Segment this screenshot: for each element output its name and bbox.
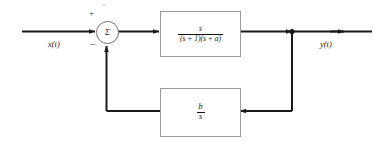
minus-sign-label: − xyxy=(90,40,96,50)
block-diagram-canvas: s (s + 1)(s + a) b s Σ + − x(t) y(t) xyxy=(0,0,390,142)
summing-junction: Σ xyxy=(96,21,119,44)
plant-numerator: s xyxy=(178,25,223,33)
plant-block: s (s + 1)(s + a) xyxy=(160,11,241,57)
input-signal-label: x(t) xyxy=(48,39,60,49)
output-signal-label: y(t) xyxy=(320,39,332,49)
plus-sign-label: + xyxy=(89,9,94,18)
feedback-transfer-function: b s xyxy=(197,103,205,121)
plant-transfer-function: s (s + 1)(s + a) xyxy=(178,25,223,42)
sigma-symbol: Σ xyxy=(105,28,110,37)
feedback-block: b s xyxy=(160,88,241,137)
feedback-denominator: s xyxy=(197,112,205,122)
scan-speck xyxy=(103,4,105,6)
feedback-numerator: b xyxy=(197,103,205,112)
plant-denominator: (s + 1)(s + a) xyxy=(178,34,223,43)
